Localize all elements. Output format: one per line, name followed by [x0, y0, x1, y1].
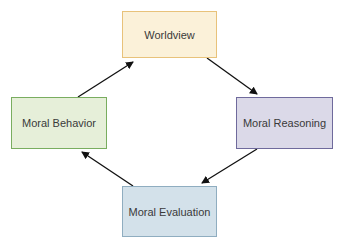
node-worldview: Worldview: [122, 11, 217, 58]
node-label: Worldview: [144, 29, 195, 41]
arrow-evaluation-to-behavior: [82, 152, 133, 186]
arrow-reasoning-to-evaluation: [202, 149, 257, 183]
arrow-behavior-to-worldview: [78, 62, 133, 97]
node-moral-reasoning: Moral Reasoning: [236, 97, 333, 149]
node-moral-evaluation: Moral Evaluation: [122, 186, 217, 237]
node-label: Moral Reasoning: [243, 117, 326, 129]
node-label: Moral Behavior: [22, 117, 96, 129]
node-label: Moral Evaluation: [129, 206, 211, 218]
arrow-worldview-to-reasoning: [207, 58, 257, 94]
node-moral-behavior: Moral Behavior: [11, 97, 107, 149]
